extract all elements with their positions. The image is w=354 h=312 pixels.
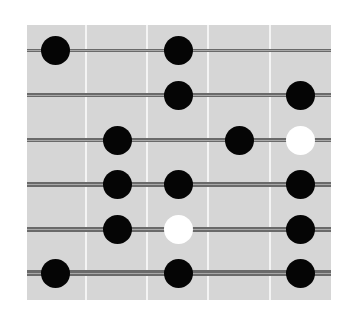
filled-dot-marker — [286, 81, 315, 110]
fretboard — [27, 25, 331, 300]
fret-line — [269, 25, 271, 300]
filled-dot-marker — [164, 81, 193, 110]
open-dot-marker — [286, 126, 315, 155]
filled-dot-marker — [286, 259, 315, 288]
filled-dot-marker — [41, 36, 70, 65]
filled-dot-marker — [103, 126, 132, 155]
filled-dot-marker — [103, 215, 132, 244]
fret-line — [146, 25, 148, 300]
filled-dot-marker — [286, 215, 315, 244]
fret-line — [85, 25, 87, 300]
filled-dot-marker — [164, 259, 193, 288]
filled-dot-marker — [164, 170, 193, 199]
filled-dot-marker — [225, 126, 254, 155]
open-dot-marker — [164, 215, 193, 244]
filled-dot-marker — [286, 170, 315, 199]
filled-dot-marker — [41, 259, 70, 288]
filled-dot-marker — [103, 170, 132, 199]
filled-dot-marker — [164, 36, 193, 65]
fret-line — [207, 25, 209, 300]
